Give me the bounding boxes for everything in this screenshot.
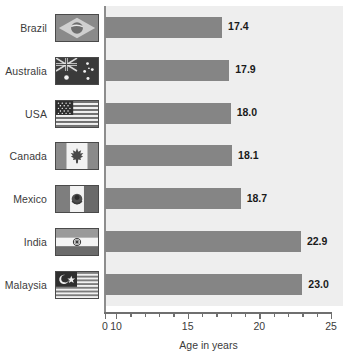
bar-value-label: 17.9 [235, 63, 255, 75]
chart-row: Malaysia 23.0 [0, 263, 343, 307]
bar-value-label: 18.1 [238, 149, 258, 161]
bar [105, 188, 241, 209]
flag-canada-icon [55, 142, 99, 170]
chart-row: USA 18.0 [0, 92, 343, 136]
bar [105, 103, 231, 124]
flag-malaysia-icon [55, 271, 99, 299]
chart-rows: Brazil 17.4Australia 17.9USA [0, 0, 343, 306]
x-axis-title: Age in years [0, 339, 343, 351]
category-label: Mexico [0, 193, 47, 205]
x-tick-label: 15 [182, 320, 194, 332]
x-tick-label: 20 [253, 320, 265, 332]
x-tick-major [105, 312, 106, 319]
flag-india-icon [55, 228, 99, 256]
chart-row: Mexico 18.7 [0, 177, 343, 221]
bar [105, 231, 301, 252]
category-label: Brazil [0, 22, 47, 34]
flag-mexico-icon [55, 185, 99, 213]
chart-row: India 22.9 [0, 220, 343, 264]
bar [105, 17, 222, 38]
x-tick-minor [274, 312, 275, 317]
x-tick-major [259, 312, 260, 319]
flag-brazil-icon [55, 14, 99, 42]
bar-value-label: 18.7 [247, 192, 267, 204]
bar [105, 274, 302, 295]
x-tick-minor [231, 312, 232, 317]
x-tick-minor [288, 312, 289, 317]
x-tick-minor [317, 312, 318, 317]
x-tick-major [116, 312, 117, 319]
x-tick-label: 25 [325, 320, 337, 332]
bar [105, 60, 229, 81]
bar [105, 145, 232, 166]
chart-row: Australia 17.9 [0, 49, 343, 93]
bar-value-label: 18.0 [237, 106, 257, 118]
bar-value-label: 22.9 [307, 235, 327, 247]
category-label: India [0, 236, 47, 248]
x-axis-line [104, 312, 332, 314]
flag-usa-icon [55, 100, 99, 128]
flag-australia-icon [55, 57, 99, 85]
category-label: Australia [0, 65, 47, 77]
x-tick-minor [245, 312, 246, 317]
x-tick-label: 0 [102, 320, 108, 332]
category-label: Canada [0, 150, 47, 162]
bar-value-label: 17.4 [228, 20, 248, 32]
category-label: Malaysia [0, 279, 47, 291]
x-tick-label: 10 [110, 320, 122, 332]
x-tick-minor [302, 312, 303, 317]
x-tick-minor [216, 312, 217, 317]
chart-row: Canada 18.1 [0, 135, 343, 179]
x-tick-minor [130, 312, 131, 317]
bar-chart: Brazil 17.4Australia 17.9USA [0, 0, 343, 361]
x-axis-title-text: Age in years [179, 339, 237, 351]
category-label: USA [0, 108, 47, 120]
bar-value-label: 23.0 [308, 278, 328, 290]
x-tick-major [188, 312, 189, 319]
x-tick-minor [145, 312, 146, 317]
x-tick-major [331, 312, 332, 319]
x-tick-minor [202, 312, 203, 317]
chart-row: Brazil 17.4 [0, 6, 343, 50]
x-tick-minor [159, 312, 160, 317]
x-tick-minor [173, 312, 174, 317]
